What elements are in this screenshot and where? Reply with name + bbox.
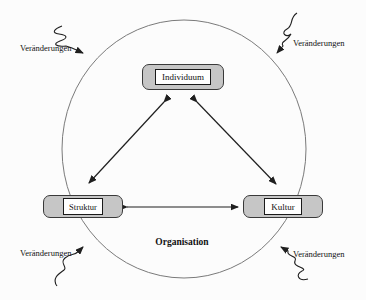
node-kultur: Kultur: [243, 195, 323, 218]
veraenderungen-label-bottom-left: Veränderungen: [20, 248, 71, 258]
arrow-individuum-struktur: [89, 102, 164, 183]
organisation-label: Organisation: [150, 237, 214, 247]
node-individuum: Individuum: [142, 64, 224, 90]
node-kultur-box: Kultur: [264, 198, 302, 215]
node-struktur-label: Struktur: [69, 202, 97, 212]
node-kultur-label: Kultur: [271, 202, 295, 212]
arrow-individuum-kultur: [197, 102, 276, 184]
node-individuum-label: Individuum: [162, 72, 204, 82]
veraenderungen-label-top-left: Veränderungen: [20, 43, 71, 53]
node-individuum-box: Individuum: [155, 69, 211, 85]
diagram-canvas: Individuum Struktur Kultur Organisation …: [0, 0, 366, 300]
node-struktur-box: Struktur: [63, 198, 103, 215]
veraenderungen-label-bottom-right: Veränderungen: [293, 249, 344, 259]
node-struktur: Struktur: [43, 195, 123, 218]
veraenderungen-label-top-right: Veränderungen: [293, 38, 344, 48]
